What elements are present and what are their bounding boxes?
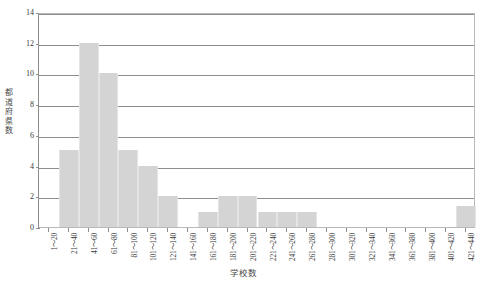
bar [277,212,297,227]
x-tick-label: 261～280 [309,233,317,261]
x-tick-label: 121～140 [170,233,178,261]
bar [238,196,258,227]
y-axis-ticks: 02468101214 [12,13,34,228]
y-tick-label: 2 [14,193,34,201]
y-tick-label: 6 [14,132,34,140]
y-tick-label: 10 [14,70,34,78]
x-tick-label: 381～400 [429,233,437,261]
x-tick-label: 41～60 [91,233,99,254]
x-tick-label: 341～360 [389,233,397,261]
x-tick-mark [127,228,128,232]
y-tick-label: 4 [14,163,34,171]
bar [59,150,79,227]
bar [99,73,119,227]
x-tick-mark [227,228,228,232]
y-tick-label: 0 [14,224,34,232]
y-tick-label: 8 [14,101,34,109]
bar [218,196,238,227]
bar [138,166,158,227]
x-tick-label: 421～440 [468,233,476,261]
x-tick-label: 201～220 [250,233,258,261]
bar [456,206,476,228]
x-tick-label: 401～420 [448,233,456,261]
x-tick-mark [465,228,466,232]
plot-area [38,13,475,228]
x-tick-label: 321～340 [369,233,377,261]
bar [118,150,138,227]
x-tick-label: 181～200 [230,233,238,261]
x-tick-mark [88,228,89,232]
x-tick-label: 161～180 [210,233,218,261]
x-tick-mark [48,228,49,232]
x-tick-mark [247,228,248,232]
x-tick-label: 301～320 [349,233,357,261]
bar [158,196,178,227]
bar [258,212,278,227]
x-tick-label: 21～40 [71,233,79,254]
x-tick-mark [68,228,69,232]
x-tick-label: 281～300 [329,233,337,261]
x-tick-mark [306,228,307,232]
x-tick-label: 361～380 [409,233,417,261]
x-tick-mark [147,228,148,232]
x-tick-mark [326,228,327,232]
x-tick-mark [187,228,188,232]
x-tick-mark [386,228,387,232]
x-tick-label: 81～100 [131,233,139,258]
x-tick-mark [167,228,168,232]
bar [297,212,317,227]
x-tick-label: 1～20 [51,233,59,250]
y-tick-label: 12 [14,40,34,48]
x-tick-mark [286,228,287,232]
x-tick-mark [108,228,109,232]
y-tick-label: 14 [14,9,34,17]
x-tick-mark [366,228,367,232]
x-tick-label: 61～80 [111,233,119,254]
x-tick-mark [425,228,426,232]
x-tick-label: 221～240 [270,233,278,261]
bar [79,43,99,227]
x-tick-mark [346,228,347,232]
x-tick-label: 101～120 [150,233,158,261]
x-tick-mark [266,228,267,232]
x-tick-label: 141～160 [190,233,198,261]
bar [198,212,218,227]
x-axis-title: 学校数 [0,268,486,278]
histogram-chart: 都道府県数 02468101214 1～2021～4041～6061～8081～… [0,0,486,286]
x-tick-mark [445,228,446,232]
x-tick-mark [405,228,406,232]
bars-layer [39,14,474,227]
x-tick-mark [207,228,208,232]
x-tick-label: 241～260 [289,233,297,261]
